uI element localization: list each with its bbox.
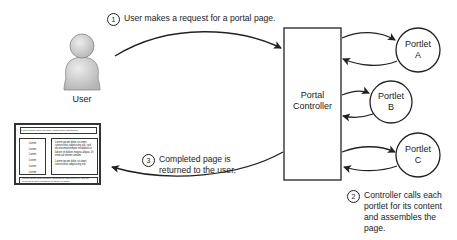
step-2-number: 2 (347, 190, 360, 203)
page-mockup: Lorem ipsum dolor sit amet, consectetur … (14, 123, 101, 185)
user-label: User (66, 94, 98, 105)
user-silhouette-icon (64, 34, 100, 90)
step-2-annotation: 2 Controller calls each portlet for its … (347, 190, 442, 234)
portal-controller-label: Portal Controller (284, 90, 341, 112)
page-mockup-header: Lorem ipsum dolor sit amet, consectetur … (20, 127, 97, 134)
portlet-a-label: Portlet A (398, 39, 438, 61)
page-mockup-footer: Lorem ipsum dolor sit amet, consectetur … (19, 177, 98, 184)
step-3-annotation: 3 Completed page is returned to the user… (142, 154, 236, 176)
portlet-c-label: Portlet C (398, 144, 438, 166)
page-mockup-content-column: Lorem ipsum dolor sit amet, consectetur … (51, 138, 98, 175)
step-1-annotation: 1 User makes a request for a portal page… (107, 13, 275, 26)
page-mockup-nav-column: Lorem Lorem Lorem Lorem Lorem Lorem (19, 138, 46, 175)
request-arrow (115, 32, 281, 56)
step-1-number: 1 (107, 13, 120, 26)
portlet-b-label: Portlet B (371, 91, 411, 113)
step-3-number: 3 (142, 154, 155, 167)
